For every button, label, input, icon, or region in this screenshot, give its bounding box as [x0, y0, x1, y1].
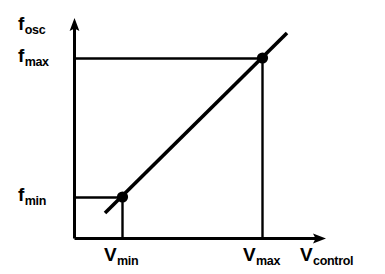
x-tick-label-v-min-subscript: min [117, 254, 138, 268]
x-tick-label-v-max: Vmax [243, 245, 280, 264]
data-point-vmax-fmax [257, 52, 268, 63]
y-tick-label-f-min: fmin [18, 185, 45, 204]
x-axis-title-subscript: control [313, 254, 353, 268]
transfer-characteristic-group [105, 33, 287, 213]
x-tick-label-v-min: Vmin [104, 245, 138, 264]
y-axis-title-subscript: osc [25, 23, 46, 37]
x-tick-label-v-max-subscript: max [256, 254, 280, 268]
plot-canvas [0, 0, 385, 274]
x-axis-title: Vcontrol [300, 245, 353, 264]
y-tick-label-f-min-base: f [18, 184, 24, 205]
figure-root: fosc fmax fmin Vmin Vmax Vcontrol [0, 0, 385, 274]
x-axis-title-base: V [300, 244, 312, 265]
data-point-vmin-fmin [117, 191, 128, 202]
y-tick-label-f-max-subscript: max [25, 55, 49, 69]
x-tick-label-v-min-base: V [104, 244, 116, 265]
x-tick-label-v-max-base: V [243, 244, 255, 265]
y-tick-label-f-max-base: f [18, 45, 24, 66]
y-axis-title: fosc [18, 14, 45, 33]
y-axis-title-base: f [18, 13, 24, 34]
y-tick-label-f-min-subscript: min [25, 194, 46, 208]
y-tick-label-f-max: fmax [18, 46, 48, 65]
